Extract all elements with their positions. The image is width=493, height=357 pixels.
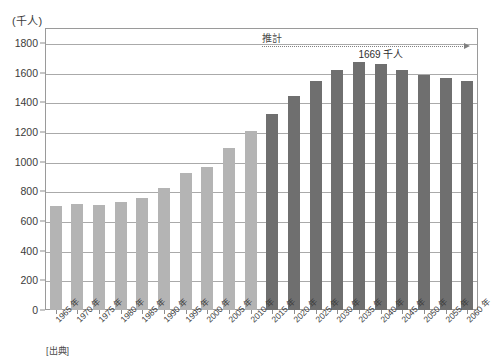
y-axis-tick-label: 600 xyxy=(20,215,38,227)
y-axis-tick-label: 1200 xyxy=(15,126,38,138)
projection-label: 推計 xyxy=(262,30,282,45)
bar xyxy=(245,131,257,310)
bar xyxy=(180,173,192,310)
bar xyxy=(136,198,148,310)
bar xyxy=(50,206,62,310)
bar xyxy=(310,81,322,310)
y-axis-tick-label: 1000 xyxy=(15,156,38,168)
bar xyxy=(115,202,127,310)
bars-layer xyxy=(45,28,478,310)
bar xyxy=(288,96,300,310)
bar xyxy=(201,167,213,310)
bar xyxy=(266,114,278,310)
y-axis-tick-label: 1600 xyxy=(15,67,38,79)
y-axis-ticks: 020040060080010001200140016001800 xyxy=(0,28,45,310)
y-axis-tick-label: 0 xyxy=(32,304,38,316)
source-note: [出典] xyxy=(46,344,69,357)
bar xyxy=(353,62,365,310)
y-axis-tick-label: 200 xyxy=(20,274,38,286)
y-axis-tick-label: 800 xyxy=(20,185,38,197)
bar xyxy=(418,75,430,310)
x-axis-ticks: 1965 年1970 年1975 年1980 年1985 年1990 年1995… xyxy=(45,310,478,354)
bar xyxy=(440,78,452,310)
bar xyxy=(158,188,170,310)
bar xyxy=(223,148,235,310)
bar xyxy=(396,70,408,310)
y-axis-tick-label: 400 xyxy=(20,245,38,257)
peak-value-label: 1669 千人 xyxy=(358,46,403,61)
y-axis-unit-label: (千人) xyxy=(12,12,43,28)
y-axis-tick-label: 1400 xyxy=(15,96,38,108)
projection-arrow-head-icon xyxy=(464,43,470,49)
bar xyxy=(461,81,473,310)
bar xyxy=(375,64,387,310)
y-axis-tick-label: 1800 xyxy=(15,37,38,49)
bar xyxy=(331,70,343,310)
